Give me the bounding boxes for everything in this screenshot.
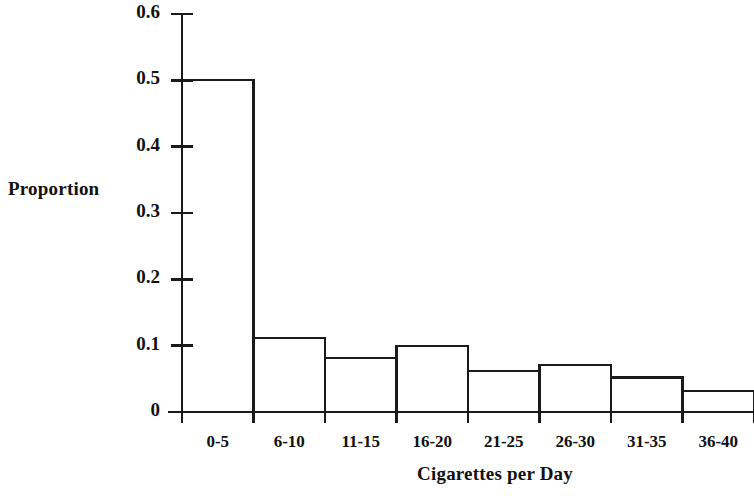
plot-area: 00.10.20.30.40.50.60-56-1011-1516-2021-2… [0,0,754,500]
histogram-bar [325,358,397,412]
y-tick-label: 0.1 [102,333,160,355]
y-tick-label: 0.5 [102,67,160,89]
histogram-bar [683,391,754,412]
x-tick-label: 36-40 [673,432,754,452]
y-tick-label: 0.4 [102,134,160,156]
y-tick-label: 0.3 [102,200,160,222]
histogram-bar [540,365,612,412]
histogram-bar [397,346,469,412]
histogram-bar [611,378,683,412]
histogram-bar [254,338,326,412]
histogram-bar [468,371,540,412]
y-tick-label: 0 [102,399,160,421]
y-tick-label: 0.6 [102,1,160,23]
histogram-bar [182,80,254,412]
y-tick-label: 0.2 [102,266,160,288]
histogram-chart: Proportion Cigarettes per Day 00.10.20.3… [0,0,754,500]
